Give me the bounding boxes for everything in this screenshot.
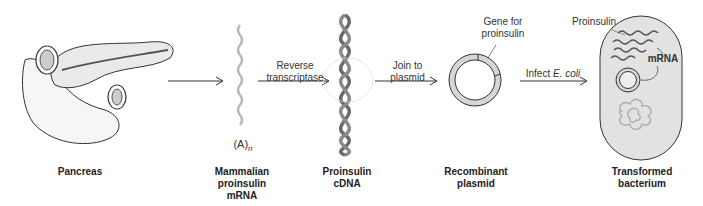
mrna-strand bbox=[238, 25, 242, 125]
label-line: cDNA bbox=[315, 178, 379, 190]
arrow-label-organism: E. coli bbox=[553, 68, 580, 79]
callout-proinsulin: Proinsulin bbox=[569, 16, 619, 28]
arrow-label-infect-e-coli: Infect E. coli bbox=[520, 68, 586, 80]
transformed-bacterium bbox=[600, 16, 682, 160]
callout-line: Gene for bbox=[478, 16, 528, 28]
label-line: Recombinant bbox=[440, 166, 512, 178]
callout-line: proinsulin bbox=[478, 28, 528, 40]
pancreas-illustration bbox=[22, 42, 173, 144]
arrow-label-line: Join to bbox=[380, 60, 435, 72]
callout-gene-for-proinsulin: Gene for proinsulin bbox=[478, 16, 528, 40]
label-line: bacterium bbox=[606, 178, 678, 190]
recombinant-plasmid bbox=[449, 45, 501, 106]
label-proinsulin-cdna: Proinsulin cDNA bbox=[315, 166, 379, 190]
arrow-label-line: Reverse bbox=[265, 60, 325, 72]
arrow-label-prefix: Infect bbox=[526, 68, 553, 79]
label-line: plasmid bbox=[440, 178, 512, 190]
label-line: proinsulin bbox=[210, 178, 274, 190]
label-line: Mammalian bbox=[210, 166, 274, 178]
arrow-label-join-to-plasmid: Join to plasmid bbox=[380, 60, 435, 84]
arrow-label-reverse-transcriptase: Reverse transcriptase bbox=[265, 60, 325, 84]
poly-a-text: (A) bbox=[233, 138, 248, 150]
arrow-label-line: transcriptase bbox=[265, 72, 325, 84]
label-pancreas: Pancreas bbox=[40, 166, 120, 178]
label-line: Proinsulin bbox=[315, 166, 379, 178]
arrow-pancreas-to-mrna bbox=[168, 77, 223, 85]
callout-mrna: mRNA bbox=[643, 53, 683, 65]
label-recombinant-plasmid: Recombinant plasmid bbox=[440, 166, 512, 190]
label-mammalian-proinsulin-mrna: Mammalian proinsulin mRNA bbox=[210, 166, 274, 202]
label-transformed-bacterium: Transformed bacterium bbox=[606, 166, 678, 190]
cdna-double-helix bbox=[323, 15, 373, 155]
arrow-label-line: plasmid bbox=[380, 72, 435, 84]
label-line: Transformed bbox=[606, 166, 678, 178]
label-line: mRNA bbox=[210, 190, 274, 202]
poly-a-tail-label: (A)n bbox=[228, 138, 258, 155]
poly-a-subscript: n bbox=[248, 144, 252, 153]
